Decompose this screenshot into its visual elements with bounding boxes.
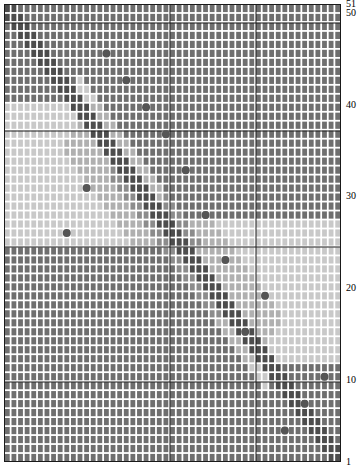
axis-tick-label-1: 1 xyxy=(346,457,351,467)
axis-tick-label-20: 20 xyxy=(346,283,356,293)
matrix-heatmap-canvas xyxy=(4,4,341,462)
right-value-axis: 5150403020101 xyxy=(341,0,362,472)
axis-tick-label-10: 10 xyxy=(346,375,356,385)
axis-tick-label-50: 50 xyxy=(346,8,356,18)
axis-tick-label-30: 30 xyxy=(346,191,356,201)
matrix-plot-area xyxy=(4,4,341,462)
axis-tick-label-40: 40 xyxy=(346,100,356,110)
matrix-plot-figure: 5150403020101 xyxy=(0,0,362,472)
